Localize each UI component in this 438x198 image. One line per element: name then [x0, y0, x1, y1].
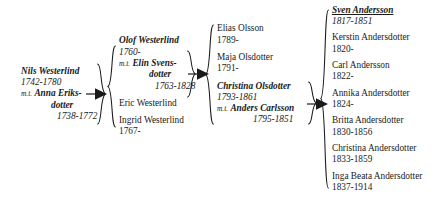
person-name: Inga Beata Andersdotter: [332, 171, 422, 182]
person-dates: 1793-1861: [217, 92, 294, 103]
person-name: Britta Andersdotter: [332, 115, 422, 126]
person-christina-andersdotter: Christina Andersdotter 1833-1859: [332, 143, 422, 166]
person-name: Sven Andersson: [332, 5, 422, 16]
person-elias-olsson: Elias Olsson 1789-: [217, 23, 294, 46]
spouse-name: Elin Svens-: [132, 58, 176, 68]
generation-group-2: Olof Westerlind 1760- m.t. Elin Svens- d…: [107, 45, 195, 128]
person-dates: 1789-: [217, 35, 294, 46]
person-dates: 1830-1856: [332, 127, 422, 138]
spouse-name-continued: dotter: [119, 69, 195, 80]
person-eric-westerlind: Eric Westerlind: [119, 98, 195, 109]
person-name: Elias Olsson: [217, 23, 294, 34]
brace-generation-4-open: [320, 9, 329, 189]
person-name: Olof Westerlind: [119, 35, 195, 46]
spouse-name: Anna Eriks-: [34, 88, 81, 98]
spouse-name-continued: dotter: [21, 100, 97, 111]
person-dates: 1824-: [332, 99, 422, 110]
person-dates: 1822-: [332, 71, 422, 82]
person-dates: 1833-1859: [332, 154, 422, 165]
spouse-name: Anders Carlsson: [230, 103, 294, 113]
person-dates: 1760-: [119, 47, 195, 58]
spouse-prefix: m.t.: [119, 59, 130, 68]
spouse-dates: 1738-1772: [21, 111, 97, 122]
spouse-line: m.t. Anders Carlsson: [217, 103, 294, 114]
person-annika-andersdotter: Annika Andersdotter 1824-: [332, 88, 422, 111]
genealogy-chart: Nils Westerlind 1742-1780 m.t. Anna Erik…: [0, 0, 438, 198]
spouse-dates: 1795-1851: [217, 114, 294, 125]
person-olof-westerlind: Olof Westerlind 1760- m.t. Elin Svens- d…: [119, 35, 195, 92]
person-name: Maja Olsdotter: [217, 52, 294, 63]
generation-4-people: Sven Andersson 1817-1851 Kerstin Andersd…: [329, 9, 422, 189]
person-kerstin-andersdotter: Kerstin Andersdotter 1820-: [332, 32, 422, 55]
spouse-dates: 1763-1828: [119, 81, 195, 92]
person-britta-andersdotter: Britta Andersdotter 1830-1856: [332, 115, 422, 138]
generation-group-4: Sven Andersson 1817-1851 Kerstin Andersd…: [320, 9, 422, 189]
person-christina-olsdotter: Christina Olsdotter 1793-1861 m.t. Ander…: [217, 81, 294, 126]
person-maja-olsdotter: Maja Olsdotter 1791-: [217, 52, 294, 75]
connector-gen1-to-gen2: [86, 87, 108, 101]
person-dates: 1817-1851: [332, 16, 422, 27]
spouse-line: m.t. Elin Svens-: [119, 58, 195, 69]
person-dates: 1767-: [119, 126, 195, 137]
person-carl-andersson: Carl Andersson 1822-: [332, 60, 422, 83]
person-name: Christina Olsdotter: [217, 81, 294, 92]
person-name: Carl Andersson: [332, 60, 422, 71]
person-name: Ingrid Westerlind: [119, 115, 195, 126]
brace-generation-2-open: [107, 45, 116, 128]
person-name: Nils Westerlind: [21, 66, 97, 77]
person-name: Christina Andersdotter: [332, 143, 422, 154]
person-dates: 1837-1914: [332, 182, 422, 193]
person-dates: 1820-: [332, 44, 422, 55]
person-inga-beata-andersdotter: Inga Beata Andersdotter 1837-1914: [332, 171, 422, 194]
brace-generation-3-open: [205, 24, 214, 125]
person-name: Eric Westerlind: [119, 98, 195, 109]
spouse-prefix: m.t.: [217, 104, 228, 113]
generation-group-3: Elias Olsson 1789- Maja Olsdotter 1791- …: [205, 24, 294, 125]
person-sven-andersson: Sven Andersson 1817-1851: [332, 5, 422, 28]
person-name: Kerstin Andersdotter: [332, 32, 422, 43]
spouse-prefix: m.t.: [21, 89, 32, 98]
person-name: Annika Andersdotter: [332, 88, 422, 99]
generation-3-people: Elias Olsson 1789- Maja Olsdotter 1791- …: [214, 24, 294, 125]
person-dates: 1791-: [217, 63, 294, 74]
generation-2-people: Olof Westerlind 1760- m.t. Elin Svens- d…: [116, 45, 195, 128]
person-ingrid-westerlind: Ingrid Westerlind 1767-: [119, 115, 195, 138]
